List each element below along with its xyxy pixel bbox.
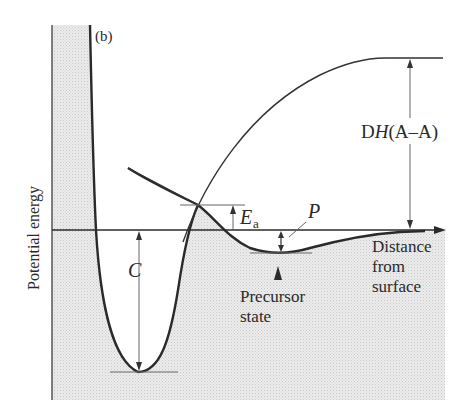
c-arrow-up-icon: [136, 231, 142, 240]
ea-subscript: a: [253, 216, 259, 231]
panel-label: (b): [95, 28, 113, 45]
y-axis-label: Potential energy: [25, 186, 43, 290]
ea-label: E: [239, 206, 252, 228]
x-axis-label-line-2: from: [372, 257, 405, 276]
x-axis-label-line-3: surface: [372, 277, 421, 296]
dh-arrow-up-icon: [407, 59, 413, 68]
c-arrow-down-icon: [136, 362, 142, 371]
precursor-label-line-2: state: [240, 307, 271, 326]
p-arrow-down-icon: [278, 245, 284, 252]
dissociation-energy-label: DH(A–A): [361, 121, 438, 143]
x-axis-label-line-1: Distance: [372, 237, 431, 256]
c-label: C: [128, 259, 142, 281]
p-label: P: [307, 200, 320, 222]
ea-arrow-up-icon: [230, 205, 236, 214]
potential-energy-diagram: C E a P Precursor state DH(A–A) Distance…: [0, 0, 473, 420]
precursor-label-line-1: Precursor: [240, 287, 305, 306]
dh-arrow-down-icon: [407, 220, 413, 229]
p-arrow-up-icon: [278, 231, 284, 238]
physisorption-curve-extension: [128, 168, 198, 205]
